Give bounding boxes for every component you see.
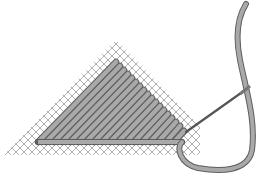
stitch-illustration [0,0,268,187]
needlepoint-diagram [0,0,268,187]
needle [186,86,250,132]
